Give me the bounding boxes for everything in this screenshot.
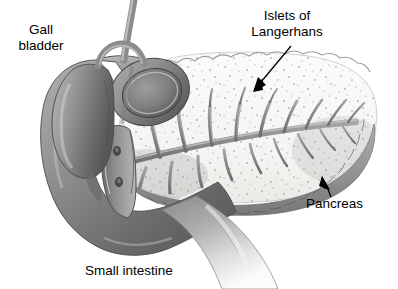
- anatomy-figure: Gall bladder Islets of Langerhans Pancre…: [0, 0, 398, 289]
- label-small-intestine: Small intestine: [85, 263, 173, 279]
- label-pancreas: Pancreas: [306, 196, 363, 212]
- label-gall-bladder-line2: bladder: [4, 38, 78, 54]
- label-islets-of-langerhans: Islets of Langerhans: [232, 8, 342, 39]
- label-islets-line2: Langerhans: [232, 24, 342, 40]
- label-gall-bladder: Gall bladder: [4, 22, 78, 53]
- label-islets-line1: Islets of: [232, 8, 342, 24]
- label-gall-bladder-line1: Gall: [4, 22, 78, 38]
